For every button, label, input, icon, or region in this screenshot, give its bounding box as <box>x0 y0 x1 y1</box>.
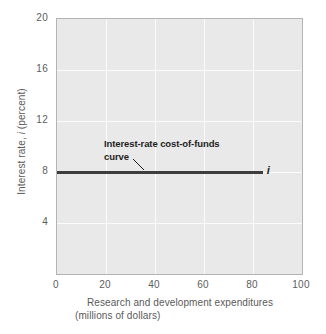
curve-annotation-line2: curve <box>104 150 254 163</box>
series-end-label-i: i <box>267 164 270 176</box>
x-axis-tick-labels: 0 20 40 60 80 100 <box>0 0 326 334</box>
x-tick-label-100: 100 <box>281 280 321 290</box>
x-axis-title-line2: (millions of dollars) <box>56 309 304 322</box>
curve-annotation: Interest-rate cost-of-funds curve <box>104 137 254 163</box>
x-tick-label-60: 60 <box>183 280 223 290</box>
x-tick-label-40: 40 <box>134 280 174 290</box>
x-tick-label-80: 80 <box>232 280 272 290</box>
x-axis-title-line1: Research and development expenditures <box>87 297 273 308</box>
y-axis-title: Interest rate, i (percent) <box>16 57 27 227</box>
x-tick-label-20: 20 <box>85 280 125 290</box>
x-tick-label-0: 0 <box>36 280 76 290</box>
y-axis-title-suffix: (percent) <box>16 88 27 132</box>
chart-figure: 20 16 12 8 4 0 20 40 60 80 100 Interest … <box>0 0 326 334</box>
annotation-leader-line <box>133 159 147 173</box>
y-axis-title-prefix: Interest rate, <box>16 134 27 194</box>
x-axis-title: Research and development expenditures (m… <box>56 296 304 322</box>
curve-annotation-line1: Interest-rate cost-of-funds <box>104 137 254 150</box>
